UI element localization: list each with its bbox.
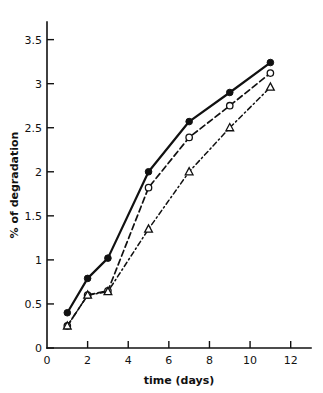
y-tick-label: 0.5 <box>25 298 43 311</box>
x-tick-label: 2 <box>84 354 91 367</box>
y-tick-label: 1 <box>35 254 42 267</box>
x-tick-label: 10 <box>243 354 257 367</box>
data-point-marker <box>84 275 91 282</box>
data-point-marker <box>267 83 275 90</box>
y-axis-title: % of degradation <box>8 132 21 239</box>
data-point-marker <box>145 184 151 190</box>
y-tick-label: 2 <box>35 166 42 179</box>
chart-figure: 00.511.522.533.5 % of degradation 024681… <box>0 0 323 393</box>
data-point-marker <box>185 168 193 175</box>
series-filled-circle-line <box>67 63 270 313</box>
y-tick-group <box>47 40 54 348</box>
data-point-marker <box>186 134 192 140</box>
data-point-marker <box>64 309 71 316</box>
data-point-marker <box>105 255 112 262</box>
y-tick-label: 1.5 <box>25 210 43 223</box>
series-open-triangle-line <box>67 87 270 326</box>
degradation-line-chart: 00.511.522.533.5 % of degradation 024681… <box>0 0 323 393</box>
series-layer <box>63 59 274 329</box>
x-axis: 024681012 time (days) <box>44 341 312 387</box>
data-point-marker <box>226 89 233 96</box>
x-tick-label: 12 <box>284 354 298 367</box>
data-point-marker <box>145 225 153 232</box>
data-point-marker <box>267 59 274 66</box>
x-tick-label-group: 024681012 <box>44 354 298 367</box>
series-filled-circle <box>64 59 274 316</box>
y-tick-label: 3 <box>35 78 42 91</box>
x-tick-label: 6 <box>165 354 172 367</box>
x-tick-group <box>88 341 291 348</box>
x-tick-label: 0 <box>44 354 51 367</box>
data-point-marker <box>227 103 233 109</box>
y-tick-label: 3.5 <box>25 34 43 47</box>
y-axis: 00.511.522.533.5 % of degradation <box>8 22 54 355</box>
x-tick-label: 8 <box>206 354 213 367</box>
y-tick-label: 0 <box>35 342 42 355</box>
x-tick-label: 4 <box>125 354 132 367</box>
data-point-marker <box>186 118 193 125</box>
x-axis-title: time (days) <box>144 374 215 387</box>
series-open-triangle <box>63 83 274 329</box>
data-point-marker <box>145 168 152 175</box>
y-tick-label: 2.5 <box>25 122 43 135</box>
data-point-marker <box>267 70 273 76</box>
y-tick-label-group: 00.511.522.533.5 <box>25 34 43 355</box>
